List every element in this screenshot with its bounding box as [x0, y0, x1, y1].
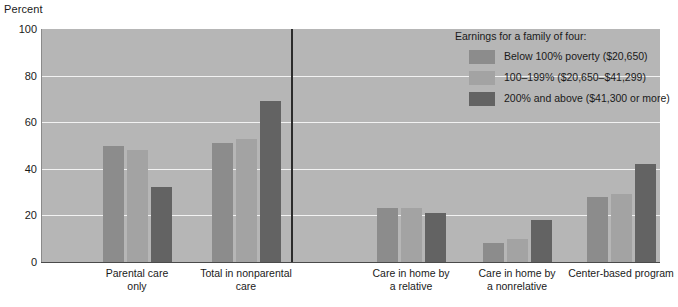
- legend-swatch: [469, 50, 495, 64]
- bar: [483, 243, 504, 262]
- gridline: [41, 122, 660, 123]
- bar: [103, 146, 124, 263]
- legend-title: Earnings for a family of four:: [455, 30, 660, 43]
- legend-entries: Below 100% poverty ($20,650)100–199% ($2…: [455, 48, 660, 107]
- bar: [635, 164, 656, 262]
- legend-label: 100–199% ($20,650–$41,299): [504, 71, 646, 84]
- y-axis-tick-label: 0: [3, 257, 37, 268]
- y-axis-tick-label: 80: [3, 71, 37, 82]
- bar: [587, 197, 608, 262]
- legend-label: 200% and above ($41,300 or more): [504, 92, 670, 105]
- bar: [377, 208, 398, 262]
- bar: [507, 239, 528, 262]
- legend-swatch: [469, 71, 495, 85]
- bar: [260, 101, 281, 262]
- legend: Earnings for a family of four: Below 100…: [455, 30, 660, 111]
- legend-label: Below 100% poverty ($20,650): [504, 50, 648, 63]
- legend-swatch: [469, 92, 495, 106]
- y-axis-tick-label: 60: [3, 117, 37, 128]
- bar: [401, 208, 422, 262]
- legend-entry: 100–199% ($20,650–$41,299): [455, 69, 660, 86]
- y-axis-tick-label: 20: [3, 210, 37, 221]
- y-axis-tick-label: 100: [3, 24, 37, 35]
- legend-entry: 200% and above ($41,300 or more): [455, 90, 660, 107]
- bar: [611, 194, 632, 262]
- bar: [425, 213, 446, 262]
- legend-entry: Below 100% poverty ($20,650): [455, 48, 660, 65]
- x-axis-category-label: Total in nonparental care: [171, 267, 321, 292]
- bar: [236, 139, 257, 262]
- y-axis-line: [41, 29, 42, 263]
- bar: [151, 187, 172, 262]
- x-axis-line: [41, 262, 660, 263]
- y-axis-tick-labels: 020406080100: [0, 0, 37, 307]
- bar: [127, 150, 148, 262]
- x-axis-category-label: Center-based program: [546, 267, 678, 280]
- bar: [531, 220, 552, 262]
- bar: [212, 143, 233, 262]
- group-divider-line: [291, 29, 293, 262]
- y-axis-tick-label: 40: [3, 164, 37, 175]
